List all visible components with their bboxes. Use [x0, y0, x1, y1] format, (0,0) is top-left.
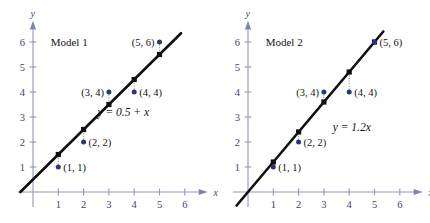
- data-point-label: (4, 4): [139, 87, 162, 99]
- fitted-value-marker: [81, 127, 86, 132]
- x-axis-arrow-icon: [199, 189, 208, 195]
- data-point: [157, 40, 162, 45]
- fit-equation-label: y = 0.5 + x: [97, 106, 150, 119]
- regression-line: [237, 32, 384, 206]
- y-tick-label: 4: [235, 87, 241, 98]
- fitted-value-marker: [321, 99, 326, 104]
- chart-panel-model-1: xy123456123456(1, 1)(2, 2)(3, 4)(4, 4)(5…: [0, 0, 215, 223]
- y-tick-label: 1: [20, 162, 25, 173]
- y-tick-label: 3: [235, 112, 240, 123]
- data-point: [132, 90, 137, 95]
- x-tick-label: 4: [347, 199, 353, 210]
- x-tick-label: 6: [397, 199, 402, 210]
- x-tick-label: 6: [182, 199, 187, 210]
- x-tick-label: 3: [321, 199, 326, 210]
- x-tick-label: 5: [157, 199, 162, 210]
- fit-equation-label: y = 1.2x: [332, 121, 372, 134]
- y-tick-label: 1: [235, 162, 240, 173]
- data-point: [347, 90, 352, 95]
- fitted-value-marker: [56, 152, 61, 157]
- y-tick-label: 5: [20, 62, 25, 73]
- data-point-label: (2, 2): [89, 137, 112, 149]
- data-point-label: (2, 2): [304, 137, 327, 149]
- y-tick-label: 4: [20, 87, 26, 98]
- x-tick-label: 1: [271, 199, 276, 210]
- data-point: [81, 140, 86, 145]
- data-point-label: (5, 6): [132, 37, 155, 49]
- data-point: [296, 140, 301, 145]
- data-point-label: (4, 4): [354, 87, 377, 99]
- fitted-value-marker: [271, 159, 276, 164]
- data-point-label: (3, 4): [296, 87, 319, 99]
- chart-svg-2: xy123456123456(1, 1)(2, 2)(3, 4)(4, 4)(5…: [215, 0, 430, 223]
- fitted-value-marker: [157, 52, 162, 57]
- y-tick-label: 3: [20, 112, 25, 123]
- data-point: [271, 165, 276, 170]
- x-axis-arrow-icon: [414, 189, 423, 195]
- data-point-label: (1, 1): [278, 162, 301, 174]
- y-tick-label: 2: [20, 137, 25, 148]
- data-point-label: (1, 1): [63, 162, 86, 174]
- x-tick-label: 1: [56, 199, 61, 210]
- fitted-value-marker: [132, 77, 137, 82]
- y-tick-label: 2: [235, 137, 240, 148]
- fitted-value-marker: [347, 69, 352, 74]
- y-axis-arrow-icon: [245, 21, 251, 30]
- y-axis-label: y: [245, 8, 251, 19]
- chart-panel-model-2: xy123456123456(1, 1)(2, 2)(3, 4)(4, 4)(5…: [215, 0, 430, 223]
- data-point: [56, 165, 61, 170]
- model-title: Model 2: [266, 36, 303, 48]
- y-axis-arrow-icon: [30, 21, 36, 30]
- x-tick-label: 2: [81, 199, 86, 210]
- x-tick-label: 5: [372, 199, 377, 210]
- y-tick-label: 6: [20, 37, 25, 48]
- data-point-label: (5, 6): [380, 37, 403, 49]
- data-point-label: (3, 4): [81, 87, 104, 99]
- data-point: [106, 90, 111, 95]
- x-tick-label: 4: [132, 199, 138, 210]
- x-tick-label: 2: [296, 199, 301, 210]
- x-tick-label: 3: [106, 199, 111, 210]
- data-point: [372, 40, 377, 45]
- y-axis-label: y: [30, 8, 36, 19]
- y-tick-label: 6: [235, 37, 240, 48]
- y-tick-label: 5: [235, 62, 240, 73]
- two-panel-scatter-figure: xy123456123456(1, 1)(2, 2)(3, 4)(4, 4)(5…: [0, 0, 430, 223]
- chart-svg-1: xy123456123456(1, 1)(2, 2)(3, 4)(4, 4)(5…: [0, 0, 215, 223]
- data-point: [321, 90, 326, 95]
- model-title: Model 1: [51, 36, 88, 48]
- fitted-value-marker: [296, 129, 301, 134]
